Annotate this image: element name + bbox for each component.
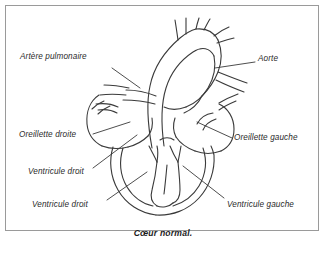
right-atrium-outline bbox=[87, 95, 153, 148]
vena-cava-outline bbox=[92, 85, 238, 114]
label-left-atrium: Oreillette gauche bbox=[234, 133, 298, 143]
leader-left-atrium bbox=[197, 122, 232, 138]
label-right-ventricle-lower: Ventricule droit bbox=[32, 200, 88, 210]
ventricles-outline bbox=[111, 146, 214, 215]
label-right-ventricle-upper: Ventricule droit bbox=[28, 167, 84, 177]
valve-plane bbox=[149, 138, 181, 162]
figure-page: Artère pulmonaire Aorte Oreillette droit… bbox=[0, 0, 326, 253]
leader-right-ventricle-upper bbox=[93, 135, 137, 168]
leader-right-atrium bbox=[93, 122, 130, 134]
label-right-atrium: Oreillette droite bbox=[19, 130, 76, 140]
heart-diagram bbox=[0, 0, 326, 253]
label-aorta: Aorte bbox=[258, 54, 278, 64]
label-left-ventricle: Ventricule gauche bbox=[227, 200, 294, 210]
figure-caption: Cœur normal. bbox=[0, 228, 326, 238]
left-atrium-outline bbox=[174, 104, 234, 153]
leader-pulmonary-artery bbox=[112, 68, 140, 88]
label-pulmonary-artery: Artère pulmonaire bbox=[20, 52, 87, 62]
interventricular-septum bbox=[151, 162, 180, 207]
leader-right-ventricle-lower bbox=[107, 172, 147, 200]
